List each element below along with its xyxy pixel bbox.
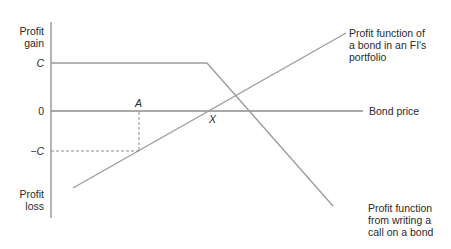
point-label-x: X — [209, 113, 216, 125]
bond-annotation-line2: a bond in an FI's — [349, 39, 426, 51]
tick-label-zero: 0 — [20, 105, 44, 117]
bond-annotation-line3: portfolio — [349, 51, 426, 63]
tick-label-c: C — [20, 57, 44, 69]
y-axis-top-label: Profit gain — [10, 25, 44, 49]
tick-label-neg-c: −C — [16, 145, 44, 157]
y-axis-bottom-label-line1: Profit — [10, 188, 44, 200]
point-label-a: A — [135, 97, 142, 109]
bond-annotation-line1: Profit function of — [349, 27, 426, 39]
call-profit-annotation: Profit function from writing a call on a… — [368, 202, 433, 238]
y-axis-bottom-label: Profit loss — [10, 188, 44, 212]
y-axis-bottom-label-line2: loss — [10, 200, 44, 212]
bond-profit-annotation: Profit function of a bond in an FI's por… — [349, 27, 426, 63]
y-axis-top-label-line1: Profit — [10, 25, 44, 37]
call-annotation-line2: from writing a — [368, 214, 433, 226]
y-axis-top-label-line2: gain — [10, 37, 44, 49]
call-profit-declining-segment — [207, 63, 333, 206]
call-annotation-line3: call on a bond — [368, 226, 433, 238]
call-annotation-line1: Profit function — [368, 202, 433, 214]
x-axis-label: Bond price — [369, 105, 419, 117]
